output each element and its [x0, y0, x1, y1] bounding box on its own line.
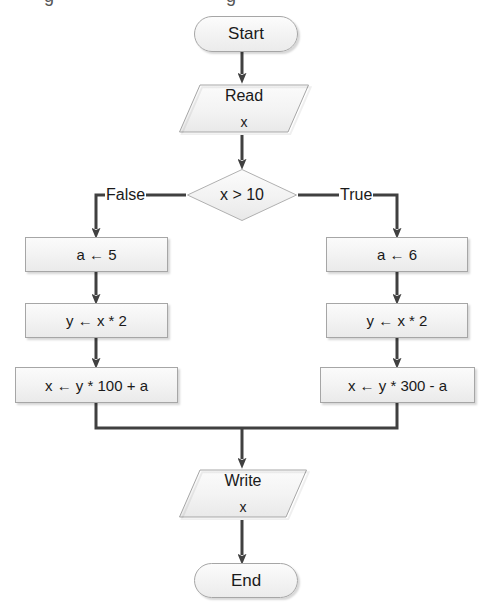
- parallelogram-shape: [176, 467, 310, 520]
- node-start[interactable]: Start: [194, 16, 298, 52]
- diamond-shape: [186, 168, 298, 222]
- node-assign-x-left-label: x ← y * 100 + a: [45, 377, 148, 394]
- node-end-label: End: [231, 571, 261, 591]
- node-assign-x-left[interactable]: x ← y * 100 + a: [15, 367, 178, 403]
- edge-label-true: True: [339, 187, 373, 203]
- node-assign-y-right-label: y ← x * 2: [367, 312, 428, 329]
- node-assign-x-right-label: x ← y * 300 - a: [348, 377, 447, 394]
- node-start-label: Start: [228, 24, 264, 44]
- node-assign-a5[interactable]: a ← 5: [25, 237, 168, 272]
- edge-label-false: False: [105, 187, 146, 203]
- parallelogram-shape: [176, 82, 312, 135]
- flowchart-canvas: g g: [0, 0, 481, 610]
- node-assign-x-right[interactable]: x ← y * 300 - a: [320, 367, 475, 403]
- node-assign-y-left[interactable]: y ← x * 2: [25, 303, 168, 338]
- node-assign-a6-label: a ← 6: [377, 246, 417, 263]
- node-end[interactable]: End: [194, 563, 298, 598]
- node-assign-y-right[interactable]: y ← x * 2: [326, 303, 468, 338]
- node-write[interactable]: Write x: [176, 467, 310, 520]
- node-assign-a5-label: a ← 5: [76, 246, 116, 263]
- node-assign-a6[interactable]: a ← 6: [326, 237, 468, 272]
- node-decision[interactable]: x > 10: [186, 168, 298, 222]
- node-assign-y-left-label: y ← x * 2: [66, 312, 127, 329]
- node-read[interactable]: Read x: [176, 82, 312, 135]
